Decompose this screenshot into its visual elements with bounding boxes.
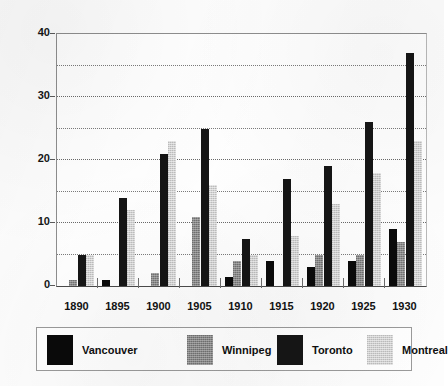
bar-winnipeg-1920 <box>315 255 323 287</box>
y-tick-label-0: 0 <box>14 279 50 290</box>
x-tick-label-1900: 1900 <box>138 300 179 312</box>
y-tick-mark-30 <box>50 96 55 97</box>
bar-montreal-1920 <box>332 204 340 286</box>
bar-group-1915 <box>262 34 303 286</box>
bar-vancouver-1910 <box>225 277 233 286</box>
chart-legend: VancouverWinnipegTorontoMontreal <box>36 327 412 371</box>
x-axis: 189018951900190519101915192019251930 <box>56 286 427 326</box>
legend-label-montreal: Montreal <box>402 344 448 356</box>
legend-swatch-winnipeg <box>187 335 213 365</box>
bar-vancouver-1925 <box>348 261 356 286</box>
bar-montreal-1890 <box>86 255 94 287</box>
x-axis-separator-5 <box>261 278 262 288</box>
y-tick-mark-0 <box>50 285 55 286</box>
bar-montreal-1905 <box>209 185 217 286</box>
y-tick-label-40: 40 <box>14 27 50 38</box>
bar-winnipeg-1925 <box>356 255 364 287</box>
bar-group-1890 <box>57 34 98 286</box>
x-axis-separator-8 <box>384 278 385 288</box>
bar-vancouver-1930 <box>389 229 397 286</box>
x-tick-label-1925: 1925 <box>343 300 384 312</box>
bar-montreal-1915 <box>291 236 299 286</box>
bar-montreal-1930 <box>414 141 422 286</box>
y-tick-label-20: 20 <box>14 153 50 164</box>
plot-area <box>56 33 427 287</box>
bar-toronto-1915 <box>283 179 291 286</box>
legend-label-winnipeg: Winnipeg <box>222 344 271 356</box>
y-tick-label-30: 30 <box>14 90 50 101</box>
bar-group-1910 <box>221 34 262 286</box>
bar-toronto-1890 <box>78 255 86 287</box>
bar-montreal-1895 <box>127 210 135 286</box>
x-tick-label-1895: 1895 <box>97 300 138 312</box>
legend-entry-toronto[interactable]: Toronto <box>277 335 353 365</box>
y-tick-mark-40 <box>50 33 55 34</box>
bar-toronto-1895 <box>119 198 127 286</box>
x-tick-label-1910: 1910 <box>220 300 261 312</box>
x-axis-separator-1 <box>97 278 98 288</box>
bar-toronto-1900 <box>160 154 168 286</box>
bar-vancouver-1915 <box>266 261 274 286</box>
legend-swatch-vancouver <box>47 335 73 365</box>
x-axis-separator-4 <box>220 278 221 288</box>
bar-group-1920 <box>303 34 344 286</box>
legend-label-toronto: Toronto <box>312 344 353 356</box>
bar-winnipeg-1930 <box>397 242 405 286</box>
legend-entry-montreal[interactable]: Montreal <box>367 335 448 365</box>
bar-toronto-1925 <box>365 122 373 286</box>
x-axis-separator-2 <box>138 278 139 288</box>
x-tick-label-1920: 1920 <box>302 300 343 312</box>
bar-montreal-1910 <box>250 255 258 287</box>
bar-group-1895 <box>98 34 139 286</box>
bar-group-1905 <box>180 34 221 286</box>
x-tick-label-1905: 1905 <box>179 300 220 312</box>
bar-winnipeg-1900 <box>151 273 159 286</box>
x-tick-label-1890: 1890 <box>56 300 97 312</box>
legend-label-vancouver: Vancouver <box>82 344 138 356</box>
bar-vancouver-1920 <box>307 267 315 286</box>
bar-toronto-1930 <box>406 53 414 286</box>
bar-montreal-1900 <box>168 141 176 286</box>
legend-swatch-toronto <box>277 335 303 365</box>
bar-toronto-1920 <box>324 166 332 286</box>
bar-montreal-1925 <box>373 173 381 286</box>
x-axis-separator-6 <box>302 278 303 288</box>
x-tick-label-1930: 1930 <box>384 300 425 312</box>
legend-entry-winnipeg[interactable]: Winnipeg <box>187 335 271 365</box>
y-tick-label-10: 10 <box>14 216 50 227</box>
x-axis-separator-7 <box>343 278 344 288</box>
y-tick-mark-10 <box>50 222 55 223</box>
legend-swatch-montreal <box>367 335 393 365</box>
bar-winnipeg-1910 <box>233 261 241 286</box>
bar-group-1930 <box>385 34 426 286</box>
bar-toronto-1905 <box>201 129 209 287</box>
bar-group-1925 <box>344 34 385 286</box>
bar-group-1900 <box>139 34 180 286</box>
y-tick-mark-20 <box>50 159 55 160</box>
legend-entry-vancouver[interactable]: Vancouver <box>47 335 138 365</box>
bar-winnipeg-1905 <box>192 217 200 286</box>
x-tick-label-1915: 1915 <box>261 300 302 312</box>
bar-toronto-1910 <box>242 239 250 286</box>
x-axis-separator-3 <box>179 278 180 288</box>
